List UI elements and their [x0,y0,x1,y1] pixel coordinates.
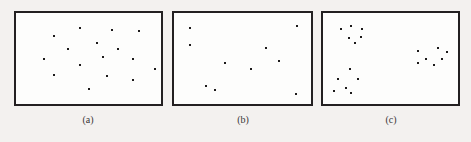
data-point [425,58,427,60]
data-point [250,68,252,70]
panel-b-plot-area [174,13,311,104]
panel-c-plot-area [323,13,458,104]
data-point [117,48,119,50]
data-point [350,25,352,27]
data-point [350,92,352,94]
data-point [437,47,439,49]
data-point [214,89,216,91]
data-point [67,48,69,50]
data-point [417,50,419,52]
panel-b-label: (b) [223,114,263,126]
data-point [53,74,55,76]
data-point [189,27,191,29]
data-point [205,85,207,87]
panel-b [172,11,313,106]
data-point [417,62,419,64]
panel-a [14,11,163,106]
panel-c [321,11,460,106]
data-point [433,64,435,66]
data-point [340,28,342,30]
data-point [278,60,280,62]
data-point [357,78,359,80]
data-point [361,28,363,30]
data-point [132,58,134,60]
data-point [79,64,81,66]
panel-a-plot-area [16,13,161,104]
data-point [132,79,134,81]
data-point [333,90,335,92]
data-point [360,36,362,38]
data-point [154,68,156,70]
scatter-plot-figure: (a) (b) (c) [0,0,471,142]
data-point [111,29,113,31]
data-point [106,75,108,77]
data-point [224,62,226,64]
data-point [446,51,448,53]
panel-c-label: (c) [371,114,411,126]
data-point [348,37,350,39]
data-point [138,30,140,32]
data-point [189,44,191,46]
data-point [43,58,45,60]
data-point [53,35,55,37]
data-point [96,42,98,44]
data-point [354,42,356,44]
data-point [337,78,339,80]
data-point [265,47,267,49]
data-point [102,56,104,58]
data-point [345,87,347,89]
data-point [295,93,297,95]
data-point [349,68,351,70]
data-point [296,25,298,27]
data-point [88,88,90,90]
data-point [441,58,443,60]
data-point [79,27,81,29]
panel-a-label: (a) [68,114,108,126]
